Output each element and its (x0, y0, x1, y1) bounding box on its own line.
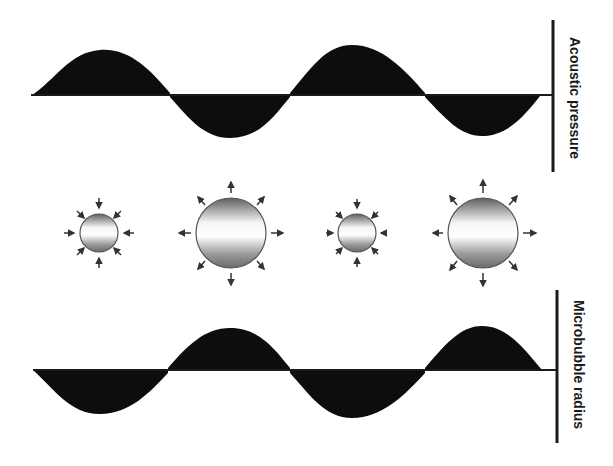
bubble-small (338, 214, 376, 252)
bubble-expanded-2 (433, 180, 536, 286)
bubble-expanded-1 (179, 182, 283, 285)
bubble-compressed-2 (326, 199, 386, 267)
bubble-small (80, 214, 118, 252)
microbubble-radius-label: Microbubble radius (571, 300, 587, 429)
microbubble-oscillation-diagram (0, 0, 613, 466)
bubble-large (196, 198, 266, 268)
acoustic-pressure-wave-fill (31, 45, 540, 138)
bubble-compressed-1 (64, 198, 134, 268)
acoustic-pressure-label: Acoustic pressure (567, 37, 583, 159)
microbubble-radius-wave (33, 326, 556, 418)
microbubble-radius-wave-fill (33, 326, 542, 418)
bubble-large (448, 198, 518, 268)
acoustic-pressure-wave (31, 45, 552, 138)
